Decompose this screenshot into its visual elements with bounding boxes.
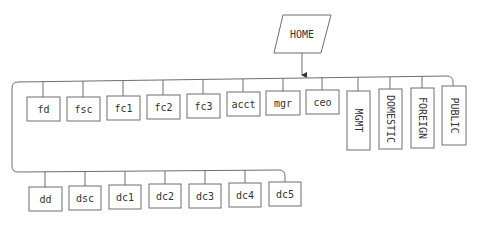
node-fc2: fc2 <box>147 95 180 119</box>
node-fc1: fc1 <box>107 96 140 120</box>
node-public-label: PUBLIC <box>449 97 460 133</box>
node-dsc: dsc <box>69 186 101 210</box>
node-mgr: mgr <box>266 91 300 115</box>
node-ceo-label: ceo <box>313 97 331 108</box>
node-mgmt-label: MGMT <box>353 108 364 132</box>
node-dc5: dc5 <box>269 182 301 206</box>
node-fsc-label: fsc <box>74 104 92 115</box>
node-dd: dd <box>29 187 62 211</box>
node-dc1: dc1 <box>109 185 141 209</box>
site-hierarchy-diagram: HOME fd fsc fc1 fc2 fc3 acc <box>0 0 479 225</box>
node-fc3-label: fc3 <box>194 101 212 112</box>
node-fd: fd <box>27 97 60 121</box>
node-public: PUBLIC <box>442 86 466 145</box>
node-dc3: dc3 <box>189 184 221 208</box>
node-domestic-label: DOMESTIC <box>385 95 396 143</box>
node-mgr-label: mgr <box>274 98 292 109</box>
node-dc1-label: dc1 <box>116 192 134 203</box>
node-dc4-label: dc4 <box>236 190 254 201</box>
node-home-label: HOME <box>290 29 314 40</box>
node-dc4: dc4 <box>229 183 261 207</box>
node-mgmt: MGMT <box>347 91 370 150</box>
node-fd-label: fd <box>37 104 49 115</box>
node-dc3-label: dc3 <box>196 191 214 202</box>
node-dc2-label: dc2 <box>156 191 174 202</box>
node-foreign-label: FOREIGN <box>417 97 428 139</box>
node-acct-label: acct <box>231 99 255 110</box>
node-dc5-label: dc5 <box>276 189 294 200</box>
node-domestic: DOMESTIC <box>379 89 402 149</box>
node-fc1-label: fc1 <box>114 103 132 114</box>
node-dc2: dc2 <box>149 184 181 208</box>
node-home: HOME <box>274 15 331 53</box>
node-fc2-label: fc2 <box>154 102 172 113</box>
node-dsc-label: dsc <box>76 193 94 204</box>
node-fc3: fc3 <box>187 94 220 118</box>
node-acct: acct <box>227 92 260 116</box>
node-ceo: ceo <box>306 90 339 114</box>
node-fsc: fsc <box>67 97 100 121</box>
node-dd-label: dd <box>39 194 51 205</box>
node-foreign: FOREIGN <box>411 88 434 148</box>
